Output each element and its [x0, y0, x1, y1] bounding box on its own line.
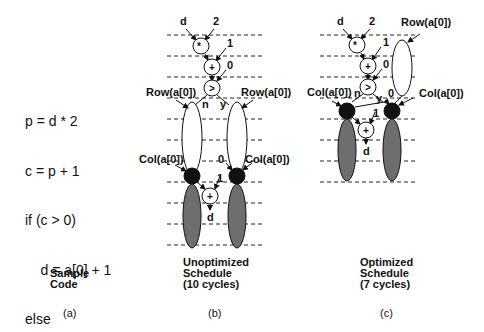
svg-text:Col(a[0]): Col(a[0]) [139, 153, 184, 165]
svg-text:0: 0 [227, 59, 233, 71]
svg-text:d: d [337, 15, 344, 27]
svg-text:Col(a[0]): Col(a[0]) [245, 153, 290, 165]
svg-text:y: y [376, 92, 383, 104]
caption-c-tag: (c) [380, 308, 393, 319]
svg-text:Row(a[0]): Row(a[0]) [401, 16, 451, 28]
svg-text:d: d [180, 15, 187, 27]
svg-text:1: 1 [227, 37, 233, 49]
svg-text:0: 0 [388, 87, 394, 99]
write-access-right [383, 119, 401, 181]
svg-text:2: 2 [369, 15, 375, 27]
row-access [392, 40, 412, 96]
svg-text:n: n [354, 87, 361, 99]
col-access-right [384, 103, 400, 119]
svg-text:1: 1 [383, 36, 389, 48]
svg-text:y: y [220, 98, 227, 110]
caption-a: Sample Code [50, 268, 89, 290]
svg-text:n: n [202, 98, 209, 110]
svg-text:Col(a[0]): Col(a[0]) [419, 87, 464, 99]
svg-text:0: 0 [383, 58, 389, 70]
svg-text:1: 1 [373, 107, 379, 119]
svg-text:d: d [363, 145, 370, 157]
optimized-graph [332, 29, 420, 181]
write-access-left [183, 184, 201, 248]
row-access-right [227, 102, 247, 174]
multiply-node [349, 37, 365, 53]
write-access-left [338, 119, 356, 181]
svg-text:>: > [209, 83, 215, 94]
svg-text:*: * [197, 41, 201, 52]
col-access-right [229, 168, 245, 184]
svg-text:+: + [207, 191, 213, 202]
caption-b-tag: (b) [208, 308, 221, 319]
svg-text:+: + [363, 125, 369, 136]
svg-text:Col(a[0]): Col(a[0]) [307, 86, 352, 98]
multiply-node [193, 38, 209, 54]
svg-text:+: + [209, 62, 215, 73]
caption-b: Unoptimized Schedule (10 cycles) [183, 257, 249, 290]
svg-text:+: + [365, 61, 371, 72]
svg-text:Row(a[0]): Row(a[0]) [146, 86, 196, 98]
svg-text:2: 2 [213, 15, 219, 27]
caption-c: Optimized Schedule (7 cycles) [360, 257, 413, 290]
row-access-left [182, 102, 202, 174]
svg-text:1: 1 [217, 172, 223, 184]
svg-text:0: 0 [218, 153, 224, 165]
svg-text:d: d [207, 211, 214, 223]
svg-text:>: > [365, 82, 371, 93]
caption-a-tag: (a) [63, 308, 76, 319]
write-access-right [228, 184, 246, 248]
col-access-left [184, 168, 200, 184]
svg-text:Row(a[0]): Row(a[0]) [241, 86, 291, 98]
svg-text:*: * [353, 40, 357, 51]
col-access-left [339, 103, 355, 119]
